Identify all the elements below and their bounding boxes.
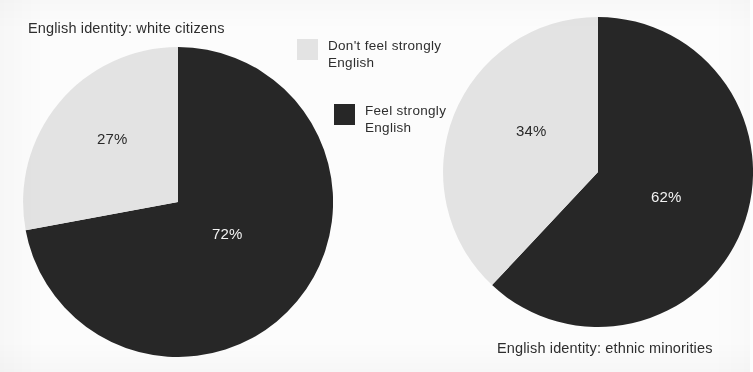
right-pie-label-light: 34% [516, 123, 547, 138]
legend-item-label: Don't feel strongly English [328, 38, 441, 71]
right-pie-chart [443, 17, 753, 327]
left-pie-svg [23, 47, 333, 357]
right-pie-label-dark: 62% [651, 189, 682, 204]
legend-item-label: Feel strongly English [365, 103, 446, 136]
dark-swatch-icon [334, 104, 355, 125]
right-chart-title: English identity: ethnic minorities [497, 340, 713, 357]
legend-item-feel-strongly: Feel strongly English [334, 103, 446, 136]
left-pie-chart [23, 47, 333, 357]
left-chart-title: English identity: white citizens [28, 20, 225, 37]
light-gray-swatch-icon [297, 39, 318, 60]
left-pie-label-light: 27% [97, 131, 128, 146]
right-pie-svg [443, 17, 753, 327]
left-pie-label-dark: 72% [212, 226, 243, 241]
legend-item-dont-feel-strongly: Don't feel strongly English [297, 38, 441, 71]
